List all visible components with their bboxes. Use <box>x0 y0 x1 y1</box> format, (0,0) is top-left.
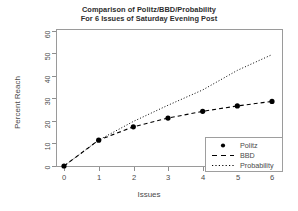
y-tick-label-10: 10 <box>45 143 52 151</box>
y-tick-mark-40 <box>52 76 56 77</box>
x-tick-label-1: 1 <box>91 173 107 182</box>
y-tick-label-20: 20 <box>45 121 52 129</box>
legend-label-politz: Politz <box>240 141 258 150</box>
legend-label-probability: Probability <box>240 161 274 170</box>
dotted-line-icon <box>210 160 236 171</box>
chart-title-line-1: Comparison of Politz/BBD/Probability <box>0 5 298 14</box>
chart-legend[interactable]: Politz BBD Probability <box>205 137 283 172</box>
y-tick-mark-0 <box>52 166 56 167</box>
x-tick-label-5: 5 <box>230 173 246 182</box>
chart-screenshot: Comparison of Politz/BBD/Probability For… <box>0 0 298 211</box>
legend-item-probability[interactable]: Probability <box>206 160 284 171</box>
y-tick-mark-10 <box>52 143 56 144</box>
y-tick-mark-50 <box>52 53 56 54</box>
x-tick-label-4: 4 <box>195 173 211 182</box>
y-tick-label-30: 30 <box>45 98 52 106</box>
x-tick-mark-3 <box>168 167 169 171</box>
x-tick-mark-2 <box>134 167 135 171</box>
chart-title-line-2: For 6 Issues of Saturday Evening Post <box>0 14 298 23</box>
x-axis-title: Issues <box>0 190 298 199</box>
legend-label-bbd: BBD <box>240 151 255 160</box>
y-tick-mark-60 <box>52 31 56 32</box>
x-tick-label-0: 0 <box>56 173 72 182</box>
y-tick-label-50: 50 <box>45 53 52 61</box>
y-tick-label-60: 60 <box>45 31 52 39</box>
chart-title: Comparison of Politz/BBD/Probability For… <box>0 5 298 24</box>
y-tick-label-0: 0 <box>45 166 52 170</box>
x-tick-mark-1 <box>99 167 100 171</box>
x-tick-label-6: 6 <box>264 173 280 182</box>
y-tick-mark-20 <box>52 121 56 122</box>
y-tick-label-40: 40 <box>45 76 52 84</box>
y-axis-title: Percent Reach <box>13 48 22 158</box>
x-tick-label-2: 2 <box>126 173 142 182</box>
x-tick-mark-4 <box>203 167 204 171</box>
x-tick-mark-0 <box>64 167 65 171</box>
y-tick-mark-30 <box>52 98 56 99</box>
x-tick-label-3: 3 <box>160 173 176 182</box>
